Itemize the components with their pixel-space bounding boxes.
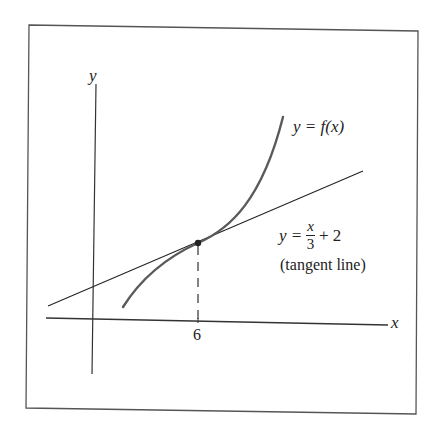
curve-label: y = f(x) <box>293 118 344 135</box>
figure-canvas <box>0 0 424 428</box>
tangent-eq-denominator: 3 <box>307 236 315 253</box>
tangent-point <box>195 240 201 246</box>
tangent-eq-lhs: y = <box>279 227 302 244</box>
function-curve <box>123 117 283 307</box>
tangent-eq-fraction: x 3 <box>306 219 315 253</box>
tangent-equation: y = x 3 + 2 <box>279 219 341 253</box>
curve-label-prefix: y = <box>293 117 321 136</box>
tangent-eq-numerator: x <box>306 219 315 236</box>
curve-label-func: f(x) <box>321 117 345 136</box>
tangent-eq-rhs: + 2 <box>319 227 341 244</box>
x-axis-label: x <box>391 314 399 331</box>
figure-frame <box>26 25 418 414</box>
tangent-note: (tangent line) <box>280 257 366 273</box>
x-axis <box>46 318 388 325</box>
y-axis-label: y <box>89 67 97 84</box>
x-tick-label: 6 <box>193 327 201 343</box>
y-axis <box>92 84 96 374</box>
